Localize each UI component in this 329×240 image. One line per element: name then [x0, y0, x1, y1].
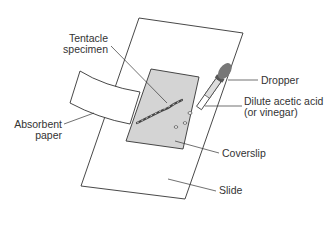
acid-drop — [188, 112, 192, 115]
label-coverslip: Coverslip — [222, 148, 266, 159]
label-tentacle-specimen: Tentacle specimen — [60, 33, 108, 55]
acid-drop — [174, 126, 178, 129]
label-dropper: Dropper — [261, 75, 299, 86]
label-slide: Slide — [219, 185, 242, 196]
label-absorbent-paper: Absorbent paper — [10, 119, 62, 141]
label-line: (or vinegar) — [244, 107, 323, 118]
label-acetic-acid: Dilute acetic acid (or vinegar) — [244, 96, 323, 118]
label-line: paper — [10, 130, 62, 141]
label-line: specimen — [60, 44, 108, 55]
acid-drop — [183, 122, 187, 125]
